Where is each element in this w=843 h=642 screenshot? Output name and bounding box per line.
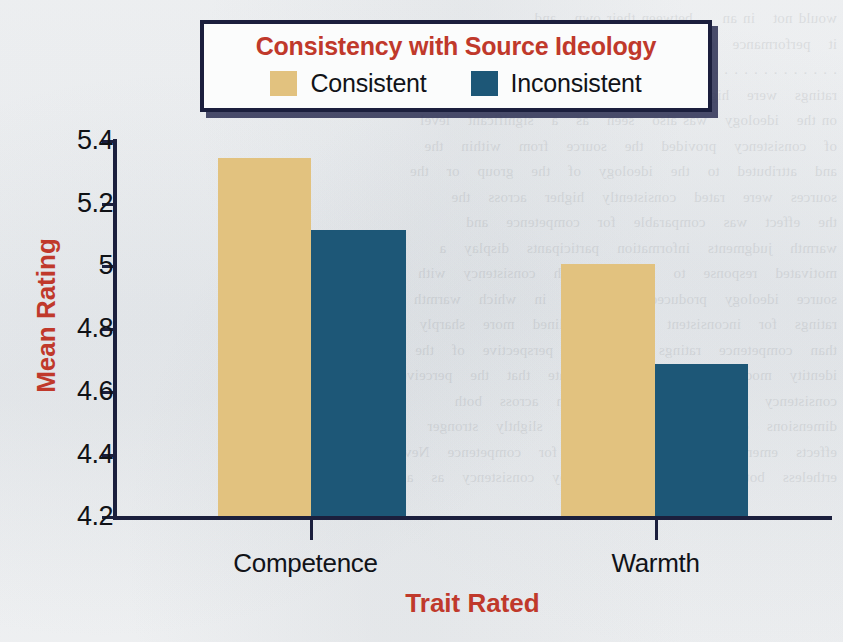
- y-tick-label: 4.4: [13, 441, 113, 468]
- bar-warmth-consistent: [561, 264, 655, 518]
- bar-chart: Consistency with Source Ideology Consist…: [0, 0, 843, 642]
- x-tick-mark: [655, 518, 658, 540]
- bar-warmth-inconsistent: [655, 364, 748, 518]
- legend-label-consistent: Consistent: [310, 70, 426, 96]
- legend-title: Consistency with Source Ideology: [204, 31, 708, 61]
- y-tick-label: 4.2: [13, 503, 113, 530]
- y-tick-label: 5.2: [13, 190, 113, 217]
- legend-entry-list: Consistent Inconsistent: [204, 70, 708, 96]
- y-tick-label: 5: [13, 252, 113, 279]
- legend-entry-consistent: Consistent: [270, 70, 426, 96]
- y-tick-label: 5.4: [13, 127, 113, 154]
- y-tick-label: 4.6: [13, 378, 113, 405]
- x-tick-mark: [310, 518, 313, 540]
- legend-label-inconsistent: Inconsistent: [511, 70, 642, 96]
- y-tick-label: 4.8: [13, 315, 113, 342]
- legend-swatch-inconsistent: [471, 71, 498, 96]
- bar-competence-inconsistent: [311, 230, 406, 518]
- x-axis-title: Trait Rated: [113, 588, 832, 619]
- legend-entry-inconsistent: Inconsistent: [471, 70, 642, 96]
- chart-legend: Consistency with Source Ideology Consist…: [200, 20, 712, 112]
- x-category-label-warmth: Warmth: [558, 548, 753, 579]
- bar-competence-consistent: [218, 158, 311, 518]
- x-axis-line: [113, 516, 832, 520]
- legend-swatch-consistent: [270, 71, 297, 96]
- y-axis-title: Mean Rating: [31, 196, 62, 436]
- x-category-label-competence: Competence: [203, 548, 408, 579]
